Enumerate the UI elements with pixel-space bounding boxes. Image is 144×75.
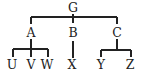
node-z: Z	[126, 57, 135, 72]
edges-from-a	[13, 39, 48, 57]
tree-diagram: G A B C U V W X Y Z	[0, 0, 144, 75]
node-c: C	[112, 25, 122, 40]
node-y: Y	[96, 57, 106, 72]
node-v: V	[25, 57, 36, 72]
node-w: W	[41, 57, 54, 72]
node-x: X	[68, 57, 77, 72]
node-g: G	[68, 0, 78, 15]
node-a: A	[25, 25, 36, 40]
node-b: B	[68, 25, 77, 40]
edges-from-c	[101, 39, 131, 57]
edges-from-g	[31, 14, 117, 24]
node-u: U	[7, 57, 18, 72]
